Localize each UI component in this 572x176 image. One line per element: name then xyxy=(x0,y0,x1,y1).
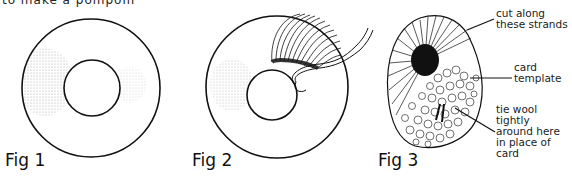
fig3-pompom xyxy=(387,16,482,148)
fig1-card-ring xyxy=(17,19,160,157)
annotation-tie-line5: card xyxy=(496,148,560,159)
annotation-tie: tie wool tightly around here in place of… xyxy=(496,104,560,159)
annotation-cut-line2: these strands xyxy=(496,19,568,30)
annotation-cut: cut along these strands xyxy=(496,8,568,30)
illustration-canvas xyxy=(0,0,572,176)
fig2-label: Fig 2 xyxy=(192,150,232,170)
fig1-label: Fig 1 xyxy=(5,150,45,170)
fig2-winding-wool xyxy=(206,14,373,158)
annotation-card: card template xyxy=(514,62,561,84)
leader-cut xyxy=(467,19,494,30)
fig3-label: Fig 3 xyxy=(378,150,418,170)
annotation-card-line2: template xyxy=(514,73,561,84)
